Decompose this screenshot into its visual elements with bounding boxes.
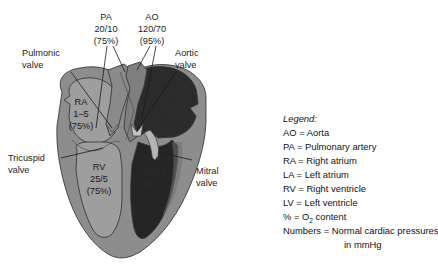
legend-numbers-line2: in mmHg xyxy=(344,239,382,250)
pulmonic-valve-label-line1: Pulmonic xyxy=(22,48,60,58)
pa-pressure: 20/10 xyxy=(95,24,118,34)
pa-saturation: (75%) xyxy=(94,36,119,46)
legend-item-ra: RA = Right atrium xyxy=(283,155,357,166)
aortic-valve-label-line2: valve xyxy=(175,60,196,70)
ra-pressure: 1–5 xyxy=(73,109,88,119)
la-saturation: (95%) xyxy=(160,121,185,131)
legend-item-ao: AO = Aorta xyxy=(283,127,330,138)
mitral-valve-label-line1: Mitral xyxy=(196,166,218,176)
legend-item-o2: % = O2 content xyxy=(283,211,347,224)
legend-title: Legend: xyxy=(283,113,317,124)
lv-pressure: 120/12 xyxy=(138,167,166,177)
ra-saturation: (75%) xyxy=(69,121,94,131)
legend-item-pa: PA = Pulmonary artery xyxy=(283,141,377,152)
ao-pressure: 120/70 xyxy=(138,24,166,34)
la-label: LA xyxy=(166,97,178,107)
legend-o2-prefix: % = O xyxy=(283,211,309,222)
ao-label: AO xyxy=(145,12,158,22)
heart-pressure-diagram: PA 20/10 (75%) AO 120/70 (95%) Pulmonic … xyxy=(0,0,438,266)
legend-numbers-line1: Numbers = Normal cardiac pressures xyxy=(283,225,438,236)
legend: Legend: AO = Aorta PA = Pulmonary artery… xyxy=(283,113,438,250)
aortic-valve-label-line1: Aortic xyxy=(175,48,199,58)
rv-pressure: 25/5 xyxy=(90,174,108,184)
legend-item-la: LA = Left atrium xyxy=(283,169,349,180)
rv-saturation: (75%) xyxy=(87,186,112,196)
tricuspid-valve-label-line1: Tricuspid xyxy=(8,153,45,163)
legend-o2-suffix: content xyxy=(313,211,347,222)
mitral-valve-label-line2: valve xyxy=(196,178,217,188)
legend-item-rv: RV = Right ventricle xyxy=(283,183,366,194)
legend-item-lv: LV = Left ventricle xyxy=(283,197,358,208)
la-pressure: 3–12 xyxy=(162,109,182,119)
ra-label: RA xyxy=(75,97,89,107)
lv-label: LV xyxy=(147,155,158,165)
pa-label: PA xyxy=(100,12,112,22)
tricuspid-valve-label-line2: valve xyxy=(8,165,29,175)
heart-diagram-svg: PA 20/10 (75%) AO 120/70 (95%) Pulmonic … xyxy=(0,0,438,266)
lv-saturation: (95%) xyxy=(140,179,165,189)
pulmonic-valve-label-line2: valve xyxy=(22,60,43,70)
rv-label: RV xyxy=(93,162,106,172)
ao-saturation: (95%) xyxy=(140,36,165,46)
